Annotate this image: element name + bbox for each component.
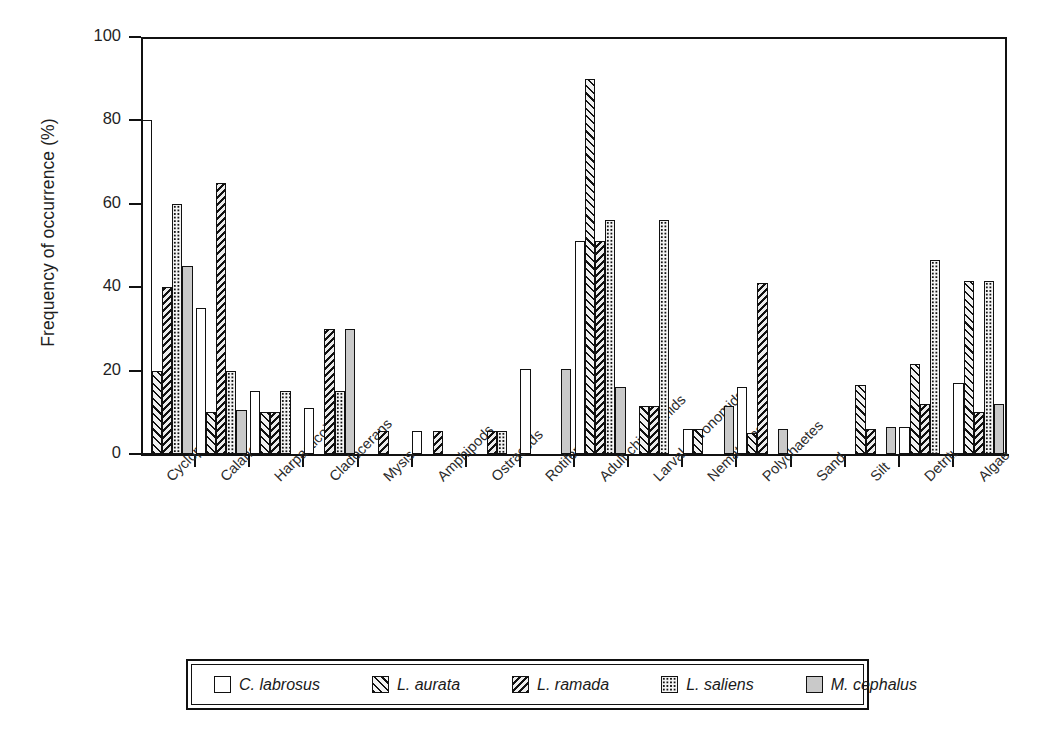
bar	[378, 431, 388, 454]
y-tick-mark	[129, 453, 141, 455]
y-tick-mark	[129, 119, 141, 121]
bar	[683, 429, 693, 454]
bar	[250, 391, 260, 454]
bar	[724, 406, 734, 454]
bar	[324, 329, 334, 454]
y-tick-label: 40	[61, 276, 121, 295]
bar	[520, 369, 530, 454]
bar-series-container	[141, 37, 1007, 454]
bar	[142, 120, 152, 454]
legend-swatch	[372, 676, 389, 693]
bar	[953, 383, 963, 454]
y-tick-label: 80	[61, 109, 121, 128]
bar	[172, 204, 182, 454]
y-tick-mark	[129, 370, 141, 372]
y-tick-mark	[129, 203, 141, 205]
bar	[899, 427, 909, 454]
bar	[615, 387, 625, 454]
bar	[747, 433, 757, 454]
frequency-of-occurrence-chart: Frequency of occurrence (%) 020406080100…	[0, 0, 1046, 734]
bar	[412, 431, 422, 454]
y-tick-label: 0	[61, 443, 121, 462]
bar	[216, 183, 226, 454]
legend-label: L. ramada	[537, 676, 609, 694]
legend-swatch	[512, 676, 529, 693]
bar	[280, 391, 290, 454]
bar	[994, 404, 1004, 454]
y-tick-label: 100	[61, 26, 121, 45]
legend-label: M. cephalus	[831, 676, 917, 694]
legend-swatch	[661, 676, 678, 693]
legend-label: C. labrosus	[239, 676, 320, 694]
bar	[206, 412, 216, 454]
legend: C. labrosusL. aurataL. ramadaL. saliensM…	[186, 659, 869, 710]
bar	[737, 387, 747, 454]
y-tick-mark	[129, 286, 141, 288]
legend-swatch	[214, 676, 231, 693]
y-axis-title: Frequency of occurrence (%)	[38, 33, 59, 433]
bar	[162, 287, 172, 454]
bar	[575, 241, 585, 454]
bar	[595, 241, 605, 454]
bar	[152, 371, 162, 454]
bar	[605, 220, 615, 454]
bar	[497, 431, 507, 454]
bar	[757, 283, 767, 454]
bar	[260, 412, 270, 454]
bar	[487, 431, 497, 454]
y-tick-label: 20	[61, 360, 121, 379]
bar	[930, 260, 940, 454]
bar	[433, 431, 443, 454]
bar	[236, 410, 246, 454]
bar	[920, 404, 930, 454]
bar	[639, 406, 649, 454]
bar	[182, 266, 192, 454]
bar	[778, 429, 788, 454]
bar	[964, 281, 974, 454]
bar	[585, 79, 595, 454]
legend-item: L. ramada	[512, 676, 609, 694]
bar	[335, 391, 345, 454]
y-tick-mark	[129, 36, 141, 38]
legend-label: L. aurata	[397, 676, 460, 694]
bar	[659, 220, 669, 454]
bar	[866, 429, 876, 454]
legend-swatch	[806, 676, 823, 693]
bar	[649, 406, 659, 454]
bar	[226, 371, 236, 454]
bar	[855, 385, 865, 454]
bar	[196, 308, 206, 454]
bar	[984, 281, 994, 454]
legend-items: C. labrosusL. aurataL. ramadaL. saliensM…	[191, 664, 864, 705]
bar	[910, 364, 920, 454]
bar	[693, 429, 703, 454]
legend-item: C. labrosus	[214, 676, 320, 694]
bar	[886, 427, 896, 454]
bar	[345, 329, 355, 454]
y-tick-label: 60	[61, 193, 121, 212]
legend-item: L. saliens	[661, 676, 754, 694]
legend-label: L. saliens	[686, 676, 754, 694]
bar	[974, 412, 984, 454]
bar	[270, 412, 280, 454]
x-tick-mark	[898, 456, 900, 467]
legend-item: M. cephalus	[806, 676, 917, 694]
x-axis-label: Silt	[867, 459, 893, 485]
bar	[304, 408, 314, 454]
legend-item: L. aurata	[372, 676, 460, 694]
bar	[561, 369, 571, 454]
